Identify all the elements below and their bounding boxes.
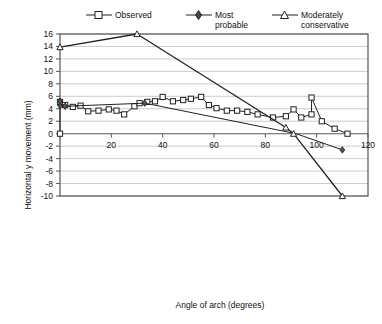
square-marker-icon bbox=[86, 109, 91, 114]
diamond-marker-icon bbox=[340, 147, 345, 153]
square-marker-icon bbox=[199, 94, 204, 99]
square-marker-icon bbox=[188, 96, 193, 101]
square-marker-icon bbox=[206, 102, 211, 107]
square-marker-icon bbox=[170, 99, 175, 104]
square-marker-icon bbox=[224, 108, 229, 113]
square-marker-icon bbox=[309, 112, 314, 117]
y-tick-label-14: 14 bbox=[44, 41, 54, 51]
square-marker-icon bbox=[106, 107, 111, 112]
square-marker-icon bbox=[160, 94, 165, 99]
square-marker-icon bbox=[152, 99, 157, 104]
square-marker-icon bbox=[299, 115, 304, 120]
y-tick-label--4: -4 bbox=[45, 154, 53, 164]
y-axis-title: Horizontal y movement (mm) bbox=[23, 65, 33, 245]
plot-area: -10-8-6-4-2024681012141620406080100120 bbox=[0, 18, 382, 318]
triangle-marker-icon bbox=[283, 124, 289, 130]
y-tick-label-4: 4 bbox=[48, 104, 53, 114]
y-tick-label-6: 6 bbox=[48, 91, 53, 101]
y-tick-label-8: 8 bbox=[48, 79, 53, 89]
square-marker-icon bbox=[245, 109, 250, 114]
x-tick-label-80: 80 bbox=[261, 140, 271, 150]
y-tick-label-12: 12 bbox=[44, 54, 54, 64]
plot-frame bbox=[60, 34, 368, 196]
x-tick-label-20: 20 bbox=[107, 140, 117, 150]
square-marker-icon bbox=[181, 97, 186, 102]
y-tick-label--2: -2 bbox=[45, 141, 53, 151]
square-marker-icon bbox=[283, 114, 288, 119]
chart-figure: Observed Most probable Moderately conser… bbox=[0, 0, 382, 324]
square-marker-icon bbox=[96, 108, 101, 113]
square-marker-icon bbox=[345, 131, 350, 136]
y-tick-label--8: -8 bbox=[45, 179, 53, 189]
square-marker-icon bbox=[319, 119, 324, 124]
square-marker-icon bbox=[57, 131, 62, 136]
x-tick-label-120: 120 bbox=[361, 140, 375, 150]
square-marker-icon bbox=[309, 95, 314, 100]
square-marker-icon bbox=[255, 112, 260, 117]
y-tick-label-2: 2 bbox=[48, 116, 53, 126]
y-tick-label-16: 16 bbox=[44, 29, 54, 39]
y-tick-label-0: 0 bbox=[48, 129, 53, 139]
square-marker-icon bbox=[291, 107, 296, 112]
x-tick-label-60: 60 bbox=[209, 140, 219, 150]
y-tick-label-10: 10 bbox=[44, 66, 54, 76]
square-marker-icon bbox=[122, 112, 127, 117]
x-tick-label-40: 40 bbox=[158, 140, 168, 150]
square-marker-icon bbox=[114, 108, 119, 113]
y-tick-label--6: -6 bbox=[45, 166, 53, 176]
square-marker-icon bbox=[132, 104, 137, 109]
x-axis-title: Angle of arch (degrees) bbox=[60, 300, 380, 310]
square-marker-icon bbox=[70, 104, 75, 109]
square-marker-icon bbox=[235, 108, 240, 113]
square-marker-icon bbox=[332, 126, 337, 131]
square-marker-icon bbox=[214, 106, 219, 111]
y-tick-label--10: -10 bbox=[41, 191, 54, 201]
